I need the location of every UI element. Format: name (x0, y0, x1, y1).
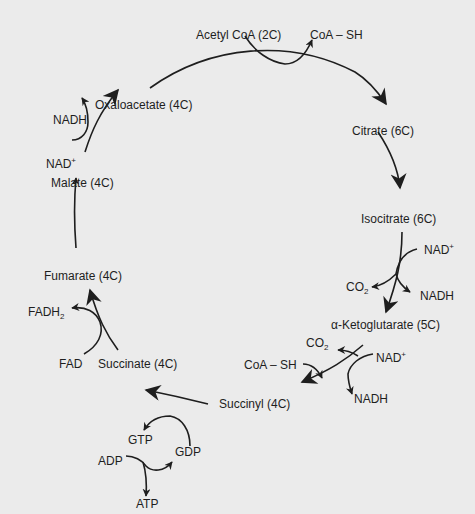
node-succinyl: Succinyl (4C) (219, 397, 290, 411)
cofactor-nad-isocitrate: NAD+ (424, 240, 454, 257)
cofactor-coa-sh-top: CoA – SH (310, 28, 363, 42)
node-acetyl-coa: Acetyl CoA (2C) (196, 28, 281, 42)
node-alpha-ketoglutarate: α-Ketoglutarate (5C) (331, 318, 440, 332)
cofactor-gtp: GTP (128, 433, 153, 447)
cofactor-co2-isocitrate: CO2 (346, 280, 368, 299)
node-malate: Malate (4C) (51, 176, 114, 190)
cofactor-fadh2: FADH2 (28, 305, 64, 324)
cofactor-nadh-akg: NADH (354, 392, 388, 406)
node-oxaloacetate: Oxaloacetate (4C) (95, 98, 192, 112)
node-citrate: Citrate (6C) (352, 124, 414, 138)
cofactor-nad-malate: NAD+ (46, 154, 76, 171)
cofactor-atp: ATP (136, 497, 158, 511)
node-isocitrate: Isocitrate (6C) (361, 212, 436, 226)
cofactor-nadh-malate: NADH (53, 113, 87, 127)
cofactor-nad-akg: NAD+ (376, 348, 406, 365)
cycle-arrows (0, 0, 475, 514)
node-succinate: Succinate (4C) (98, 357, 177, 371)
krebs-cycle-diagram: Acetyl CoA (2C) CoA – SH Oxaloacetate (4… (0, 0, 475, 514)
cofactor-nadh-isocitrate: NADH (420, 289, 454, 303)
cofactor-coa-sh-akg: CoA – SH (244, 358, 297, 372)
cofactor-gdp: GDP (175, 445, 201, 459)
cofactor-co2-akg: CO2 (306, 336, 328, 355)
cofactor-fad: FAD (59, 357, 82, 371)
node-fumarate: Fumarate (4C) (44, 269, 122, 283)
cofactor-adp: ADP (98, 454, 123, 468)
